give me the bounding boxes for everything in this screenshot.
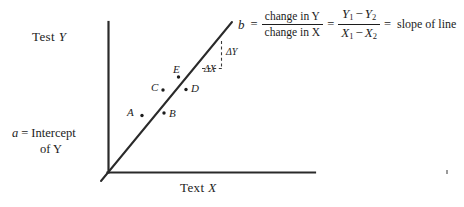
formula-x2: X [365,25,373,40]
point-label-c: C [151,82,158,93]
intercept-equals: = [18,126,31,140]
formula-denominator-minus: − [353,25,364,40]
point-label-b: B [169,108,176,119]
point-label-e: E [173,64,180,75]
formula-equals-1: = [247,18,262,31]
formula-denominator-words: change in X [262,25,324,39]
formula-y2-subscript: 2 [372,12,376,22]
scan-artifact-speck [446,170,448,174]
delta-x-label: ΔX [204,64,216,74]
delta-y-label: ΔY [226,47,237,57]
point-dot-e [177,75,180,78]
point-dot-a [140,114,143,117]
slope-formula: b = change in Y change in X = Y1−Y2 X1−X… [238,7,456,42]
point-dot-c [161,88,164,91]
formula-result-text: slope of line [395,18,456,30]
formula-words-fraction: change in Y change in X [262,10,324,39]
y-axis-title-text: Test [32,29,59,44]
formula-symbol-fraction: Y1−Y2 X1−X2 [338,7,380,42]
formula-numerator-minus: − [353,6,364,21]
x-axis-title-symbol: X [208,180,216,195]
point-label-d: D [191,83,199,94]
formula-numerator-words: change in Y [262,10,323,24]
y-axis-title-symbol: Y [59,29,67,44]
point-dot-d [184,88,187,91]
regression-line-figure: Test Y Text X a=Interceptof Y A B C D E … [0,0,464,207]
x-axis-title-text: Text [180,180,208,195]
formula-equals-2: = [323,18,338,31]
point-label-a: A [127,107,134,118]
formula-x2-subscript: 2 [373,31,377,41]
y-axis-title: Test Y [32,30,66,43]
formula-numerator-symbols: Y1−Y2 [339,7,379,24]
intercept-annotation: a=Interceptof Y [12,126,76,157]
formula-b-symbol: b [238,18,247,31]
intercept-line1: Intercept [31,126,75,140]
intercept-line2: of Y [12,142,76,158]
formula-denominator-symbols: X1−X2 [338,25,380,42]
formula-x1: X [341,25,349,40]
regression-line [101,22,232,181]
formula-equals-3: = [380,18,395,31]
point-dot-b [162,111,165,114]
x-axis-title: Text X [180,181,217,194]
formula-y2: Y [365,6,372,21]
